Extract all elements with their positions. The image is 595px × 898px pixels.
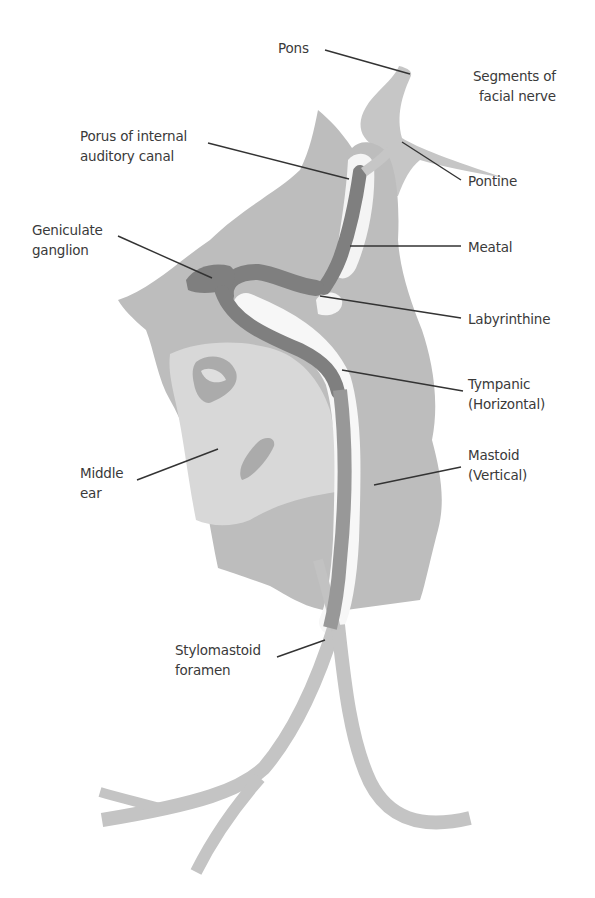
- title-line-1: Segments of: [473, 66, 556, 86]
- label-middle-ear: Middle ear: [80, 463, 123, 503]
- label-stylomastoid-line-2: foramen: [175, 660, 261, 680]
- label-tympanic-line-2: (Horizontal): [468, 394, 545, 414]
- label-labyrinthine: Labyrinthine: [468, 309, 550, 329]
- branch-left-upper-shape: [100, 792, 160, 808]
- label-middle-ear-line-1: Middle: [80, 463, 123, 483]
- label-pontine-text: Pontine: [468, 171, 517, 191]
- label-middle-ear-line-2: ear: [80, 483, 123, 503]
- label-mastoid: Mastoid (Vertical): [468, 445, 527, 485]
- leader-pons: [325, 50, 410, 74]
- label-porus-line-2: auditory canal: [80, 146, 187, 166]
- label-title: Segments of facial nerve: [473, 66, 556, 106]
- label-labyrinthine-text: Labyrinthine: [468, 309, 550, 329]
- label-tympanic: Tympanic (Horizontal): [468, 374, 545, 414]
- label-pontine: Pontine: [468, 171, 517, 191]
- label-tympanic-line-1: Tympanic: [468, 374, 545, 394]
- label-pons: Pons: [278, 38, 309, 58]
- label-mastoid-line-2: (Vertical): [468, 465, 527, 485]
- label-geniculate-line-1: Geniculate: [32, 220, 103, 240]
- label-porus-line-1: Porus of internal: [80, 126, 187, 146]
- label-pons-text: Pons: [278, 38, 309, 58]
- label-porus: Porus of internal auditory canal: [80, 126, 187, 166]
- label-meatal-text: Meatal: [468, 237, 512, 257]
- label-geniculate: Geniculate ganglion: [32, 220, 103, 260]
- label-stylomastoid-line-1: Stylomastoid: [175, 640, 261, 660]
- title-line-2: facial nerve: [473, 86, 556, 106]
- label-geniculate-line-2: ganglion: [32, 240, 103, 260]
- branch-right-shape: [338, 625, 470, 823]
- label-mastoid-line-1: Mastoid: [468, 445, 527, 465]
- label-meatal: Meatal: [468, 237, 512, 257]
- label-stylomastoid: Stylomastoid foramen: [175, 640, 261, 680]
